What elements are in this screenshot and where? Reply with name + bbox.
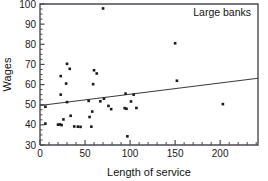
data-point	[62, 118, 65, 121]
y-tick-label: 100	[19, 0, 36, 10]
data-point	[73, 125, 76, 128]
y-tick-label: 50	[25, 99, 37, 110]
data-point	[124, 92, 127, 95]
data-point	[132, 93, 135, 96]
chart-canvas: 30405060708090100050100150200Length of s…	[0, 0, 268, 181]
data-point	[66, 63, 69, 66]
data-point	[44, 105, 47, 108]
data-point	[91, 110, 94, 113]
data-point	[93, 69, 96, 72]
y-tick-label: 70	[25, 59, 37, 70]
data-point	[90, 125, 93, 128]
data-point	[126, 135, 129, 138]
x-tick-label: 0	[37, 148, 43, 159]
data-point	[77, 125, 80, 128]
data-point	[60, 124, 63, 127]
data-point	[102, 7, 105, 10]
data-point	[92, 83, 95, 86]
data-point	[95, 72, 98, 75]
panel-annotation: Large banks	[193, 6, 251, 18]
regression-line	[40, 78, 258, 105]
x-tick-label: 100	[122, 148, 139, 159]
data-point	[103, 97, 106, 100]
y-tick-label: 30	[25, 140, 37, 151]
y-tick-label: 90	[25, 19, 37, 30]
data-point	[69, 114, 72, 117]
y-tick-label: 60	[25, 79, 37, 90]
data-point	[68, 68, 71, 71]
data-point	[99, 100, 102, 103]
data-point	[107, 105, 110, 108]
x-tick-label: 200	[212, 148, 229, 159]
data-point	[135, 107, 138, 110]
data-point	[110, 108, 113, 111]
scatter-plot-figure: 30405060708090100050100150200Length of s…	[0, 0, 268, 181]
y-tick-label: 80	[25, 39, 37, 50]
data-point	[79, 126, 82, 129]
x-axis-title: Length of service	[107, 166, 191, 178]
data-point	[125, 107, 128, 110]
data-point	[88, 116, 91, 119]
data-point	[130, 100, 133, 103]
data-point	[59, 75, 62, 78]
data-point	[44, 122, 47, 125]
data-point	[66, 101, 69, 104]
data-point	[59, 93, 62, 96]
data-point	[176, 79, 179, 82]
y-axis-title: Wages	[1, 57, 13, 91]
data-point	[222, 103, 225, 106]
data-point	[174, 42, 177, 45]
data-point	[87, 100, 90, 103]
x-tick-label: 50	[79, 148, 91, 159]
plot-frame	[40, 4, 258, 145]
data-point	[65, 82, 68, 85]
x-tick-label: 150	[167, 148, 184, 159]
y-tick-label: 40	[25, 119, 37, 130]
